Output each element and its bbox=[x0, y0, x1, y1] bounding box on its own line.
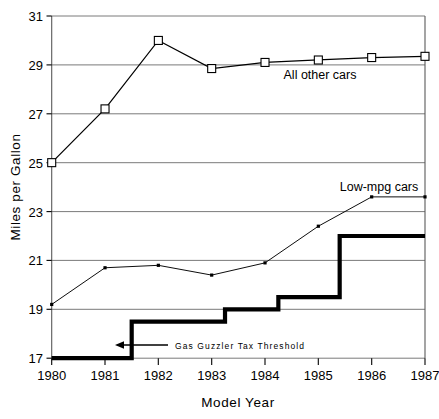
x-tick-label: 1982 bbox=[144, 368, 173, 383]
threshold-annotation-label: Gas Guzzler Tax Threshold bbox=[175, 341, 305, 351]
x-tick-label: 1987 bbox=[411, 368, 439, 383]
x-axis-title: Model Year bbox=[201, 395, 275, 410]
data-point-marker bbox=[314, 56, 322, 64]
x-tick-label: 1986 bbox=[357, 368, 386, 383]
data-point-marker bbox=[210, 273, 213, 276]
y-axis-title: Miles per Gallon bbox=[8, 133, 23, 240]
y-tick-label: 27 bbox=[29, 107, 43, 122]
x-tick-labels: 1980 1981 1982 1983 1984 1985 1986 1987 bbox=[37, 368, 439, 383]
series-line-low-mpg-cars bbox=[52, 197, 425, 305]
data-point-marker bbox=[101, 105, 109, 113]
y-tick-label: 19 bbox=[29, 302, 43, 317]
data-point-marker bbox=[103, 266, 106, 269]
y-tick-label: 31 bbox=[29, 9, 43, 24]
x-tick-label: 1981 bbox=[91, 368, 120, 383]
series-label-low-mpg-cars: Low-mpg cars bbox=[340, 180, 419, 194]
y-tick-label: 17 bbox=[29, 351, 43, 366]
y-tick-labels: 31 29 27 25 23 21 19 17 bbox=[29, 9, 43, 366]
series-layer bbox=[48, 36, 429, 306]
data-point-marker bbox=[317, 225, 320, 228]
fuel-economy-chart: 31 29 27 25 23 21 19 17 Miles per Gallon… bbox=[0, 0, 439, 419]
threshold-annotation-arrow bbox=[115, 341, 168, 349]
data-point-marker bbox=[157, 264, 160, 267]
data-point-marker bbox=[423, 195, 426, 198]
data-point-marker bbox=[208, 65, 216, 73]
data-point-marker bbox=[421, 52, 429, 60]
y-ticks bbox=[47, 16, 52, 358]
y-tick-label: 21 bbox=[29, 253, 43, 268]
data-point-marker bbox=[263, 261, 266, 264]
data-point-marker bbox=[48, 159, 56, 167]
series-label-all-other-cars: All other cars bbox=[284, 68, 357, 82]
y-tick-label: 25 bbox=[29, 156, 43, 171]
x-tick-label: 1985 bbox=[304, 368, 333, 383]
data-point-marker bbox=[154, 36, 162, 44]
data-point-marker bbox=[370, 195, 373, 198]
x-tick-label: 1980 bbox=[37, 368, 66, 383]
data-point-marker bbox=[368, 54, 376, 62]
chart-svg: 31 29 27 25 23 21 19 17 Miles per Gallon… bbox=[0, 0, 439, 419]
data-point-marker bbox=[261, 58, 269, 66]
x-tick-label: 1984 bbox=[251, 368, 280, 383]
y-tick-label: 23 bbox=[29, 205, 43, 220]
y-tick-label: 29 bbox=[29, 58, 43, 73]
x-tick-label: 1983 bbox=[197, 368, 226, 383]
data-point-marker bbox=[50, 303, 53, 306]
